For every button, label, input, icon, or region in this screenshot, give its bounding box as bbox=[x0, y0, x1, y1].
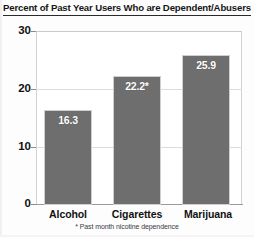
chart-title: Percent of Past Year Users Who are Depen… bbox=[3, 2, 251, 13]
bar-marijuana[interactable]: 25.9 bbox=[182, 55, 230, 205]
bar-alcohol[interactable]: 16.3 bbox=[44, 110, 92, 205]
title-underline bbox=[3, 15, 251, 16]
y-tick-label-0: 0 bbox=[0, 198, 31, 210]
bar-value-alcohol: 16.3 bbox=[45, 115, 91, 126]
bar-value-cigarettes: 22.2* bbox=[114, 81, 160, 92]
y-tick-mark-20 bbox=[31, 89, 36, 90]
y-tick-label-30: 30 bbox=[0, 25, 31, 37]
page-edge-bottom bbox=[0, 235, 254, 237]
bar-cigarettes[interactable]: 22.2* bbox=[113, 76, 161, 205]
x-category-label-alcohol: Alcohol bbox=[36, 208, 100, 220]
bar-value-marijuana: 25.9 bbox=[183, 60, 229, 71]
y-tick-label-20: 20 bbox=[0, 83, 31, 95]
x-category-label-marijuana: Marijuana bbox=[174, 208, 242, 220]
y-tick-mark-30 bbox=[31, 31, 36, 32]
y-tick-mark-0 bbox=[31, 204, 36, 205]
x-category-label-cigarettes: Cigarettes bbox=[103, 208, 171, 220]
y-tick-mark-10 bbox=[31, 147, 36, 148]
y-tick-label-10: 10 bbox=[0, 141, 31, 153]
chart-container: Percent of Past Year Users Who are Depen… bbox=[0, 0, 254, 237]
chart-footnote: * Past month nicotine dependence bbox=[0, 223, 254, 230]
